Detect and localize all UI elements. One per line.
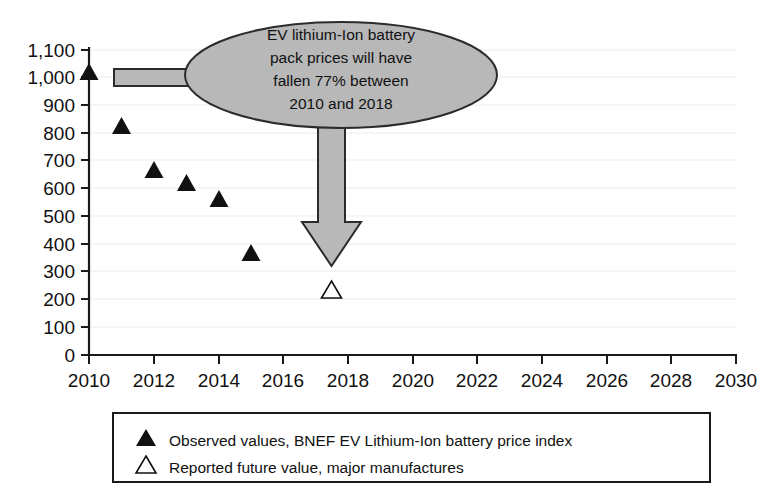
data-point-2012 bbox=[145, 161, 164, 178]
y-tick-label-800: 800 bbox=[43, 123, 75, 144]
y-tick-label-1100: 1,100 bbox=[27, 40, 75, 61]
y-tick-label-900: 900 bbox=[43, 95, 75, 116]
callout-line-1: EV lithium-Ion battery bbox=[267, 26, 415, 43]
data-point-2014 bbox=[210, 190, 229, 207]
callout-annotation: EV lithium-Ion battery pack prices will … bbox=[114, 22, 497, 266]
legend-label-reported: Reported future value, major manufacture… bbox=[169, 459, 464, 476]
y-tick-label-0: 0 bbox=[64, 345, 75, 366]
legend-marker-open-triangle-icon bbox=[136, 456, 156, 473]
x-tick-label-2022: 2022 bbox=[456, 370, 498, 391]
data-point-future-2018 bbox=[322, 281, 342, 298]
legend-label-observed: Observed values, BNEF EV Lithium-Ion bat… bbox=[169, 432, 572, 449]
x-tick-label-2024: 2024 bbox=[521, 370, 564, 391]
data-point-2010 bbox=[80, 63, 99, 80]
callout-line-2: pack prices will have bbox=[270, 49, 412, 66]
x-axis: 2010 2012 2014 2016 2018 2020 2022 2024 … bbox=[68, 355, 757, 391]
y-tick-label-400: 400 bbox=[43, 234, 75, 255]
y-tick-label-600: 600 bbox=[43, 178, 75, 199]
series-reported-future-value bbox=[322, 281, 342, 298]
y-tick-label-500: 500 bbox=[43, 206, 75, 227]
chart-legend: Observed values, BNEF EV Lithium-Ion bat… bbox=[113, 413, 710, 482]
x-tick-label-2030: 2030 bbox=[715, 370, 757, 391]
x-tick-label-2020: 2020 bbox=[392, 370, 434, 391]
x-tick-label-2016: 2016 bbox=[262, 370, 304, 391]
data-point-2013 bbox=[177, 174, 196, 191]
callout-line-3: fallen 77% between bbox=[273, 72, 408, 89]
data-point-2011 bbox=[112, 117, 131, 134]
y-tick-label-300: 300 bbox=[43, 261, 75, 282]
y-tick-label-1000: 1,000 bbox=[27, 67, 75, 88]
x-tick-label-2014: 2014 bbox=[198, 370, 241, 391]
y-axis: 1,100 1,000 900 800 700 600 500 400 300 … bbox=[27, 40, 89, 366]
legend-marker-filled-triangle-icon bbox=[136, 429, 156, 446]
x-tick-label-2018: 2018 bbox=[327, 370, 369, 391]
x-tick-label-2028: 2028 bbox=[650, 370, 692, 391]
x-tick-label-2026: 2026 bbox=[586, 370, 628, 391]
chart-canvas: 1,100 1,000 900 800 700 600 500 400 300 … bbox=[0, 0, 784, 498]
y-tick-label-100: 100 bbox=[43, 317, 75, 338]
data-point-2015 bbox=[242, 244, 261, 261]
x-tick-label-2012: 2012 bbox=[133, 370, 175, 391]
y-tick-label-700: 700 bbox=[43, 150, 75, 171]
callout-line-4: 2010 and 2018 bbox=[289, 95, 392, 112]
y-tick-label-200: 200 bbox=[43, 289, 75, 310]
battery-price-scatter-chart: 1,100 1,000 900 800 700 600 500 400 300 … bbox=[0, 0, 784, 498]
x-tick-label-2010: 2010 bbox=[68, 370, 110, 391]
